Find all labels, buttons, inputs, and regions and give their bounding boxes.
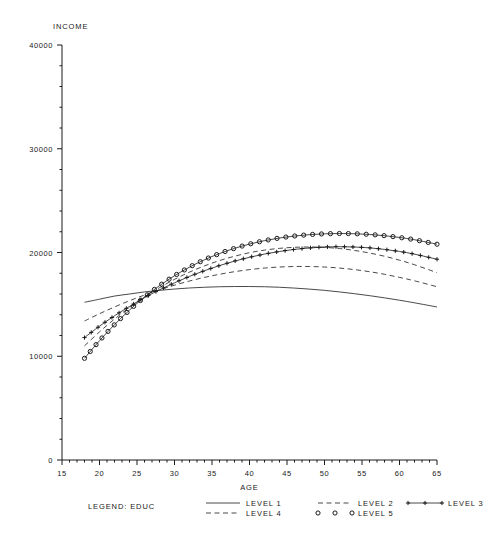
legend-marker-plus (406, 501, 410, 505)
series-line-level-2 (85, 266, 438, 321)
legend-marker-circle (350, 511, 354, 515)
x-tick-label: 40 (245, 469, 255, 478)
x-tick-label: 60 (395, 469, 405, 478)
x-tick-label: 65 (432, 469, 442, 478)
marker-plus (418, 253, 422, 257)
marker-plus (283, 249, 287, 253)
marker-plus (110, 315, 114, 319)
legend-marker-plus (440, 501, 444, 505)
legend-label: LEVEL 5 (358, 509, 394, 518)
series-line-level-5 (85, 234, 438, 359)
marker-plus (266, 251, 270, 255)
marker-plus (275, 250, 279, 254)
marker-plus (435, 257, 439, 261)
marker-plus (385, 248, 389, 252)
y-axis-title: INCOME (53, 22, 88, 31)
marker-plus (325, 245, 329, 249)
marker-plus (342, 245, 346, 249)
income-by-age-line-chart: 010000200003000040000INCOME1520253035404… (0, 0, 483, 542)
marker-plus (317, 245, 321, 249)
legend-label: LEVEL 4 (246, 509, 282, 518)
marker-plus (410, 252, 414, 256)
y-tick-label: 40000 (29, 41, 53, 50)
x-tick-label: 50 (320, 469, 330, 478)
legend-label: LEVEL 1 (246, 499, 282, 508)
x-tick-label: 35 (207, 469, 217, 478)
marker-plus (291, 247, 295, 251)
legend-marker-plus (423, 501, 427, 505)
marker-plus (209, 266, 213, 270)
marker-plus (427, 255, 431, 259)
marker-plus (177, 279, 181, 283)
marker-plus (258, 253, 262, 257)
y-tick-label: 30000 (29, 145, 53, 154)
marker-plus (368, 246, 372, 250)
legend-marker-circle (333, 511, 337, 515)
x-tick-label: 25 (132, 469, 142, 478)
x-tick-label: 55 (357, 469, 367, 478)
legend-label: LEVEL 3 (448, 499, 483, 508)
marker-plus (201, 269, 205, 273)
x-tick-label: 15 (57, 469, 67, 478)
marker-plus (308, 246, 312, 250)
marker-plus (359, 245, 363, 249)
marker-plus (402, 250, 406, 254)
marker-plus (185, 275, 189, 279)
marker-plus (241, 257, 245, 261)
series-line-level-1 (85, 287, 438, 307)
x-tick-label: 30 (170, 469, 180, 478)
marker-plus (117, 311, 121, 315)
series-line-level-3 (85, 247, 438, 338)
x-tick-label: 20 (95, 469, 105, 478)
x-tick-label: 45 (282, 469, 292, 478)
y-tick-label: 20000 (29, 249, 53, 258)
legend-label: LEVEL 2 (358, 499, 394, 508)
marker-plus (193, 272, 197, 276)
y-tick-label: 0 (48, 456, 53, 465)
x-axis-title: AGE (240, 483, 259, 492)
marker-plus (225, 261, 229, 265)
marker-plus (376, 247, 380, 251)
marker-plus (217, 264, 221, 268)
marker-plus (393, 249, 397, 253)
legend-title: LEGEND: EDUC (88, 502, 155, 511)
marker-plus (334, 245, 338, 249)
marker-plus (233, 259, 237, 263)
legend-marker-circle (316, 511, 320, 515)
series-line-level-4 (85, 247, 438, 346)
marker-plus (250, 255, 254, 259)
marker-plus (300, 246, 304, 250)
y-tick-label: 10000 (29, 352, 53, 361)
chart-container: 010000200003000040000INCOME1520253035404… (0, 0, 483, 542)
marker-plus (351, 245, 355, 249)
